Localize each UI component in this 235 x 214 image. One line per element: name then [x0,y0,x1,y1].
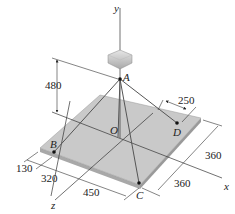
dimension-480-label: 480 [45,80,62,91]
x-axis-label: x [224,181,229,192]
weight-block [108,50,132,69]
point-C-label: C [136,190,143,201]
point-O-label: O [110,125,118,136]
y-axis-label: y [114,3,119,14]
point-A-label: A [123,72,130,83]
dimension-130-label: 130 [16,163,33,174]
dimension-360-upper-label: 360 [205,150,222,161]
diagram-canvas [0,0,235,214]
dimension-450-label: 450 [83,187,100,198]
dimension-250-label: 250 [178,95,195,106]
point-B-label: B [50,139,57,150]
dimension-320-label: 320 [41,173,58,184]
z-axis-label: z [51,200,55,211]
point-D-label: D [173,127,181,138]
statics-diagram: y x z A B C D O 480 250 130 320 450 360 … [0,0,235,214]
dimension-360-lower-label: 360 [174,178,191,189]
